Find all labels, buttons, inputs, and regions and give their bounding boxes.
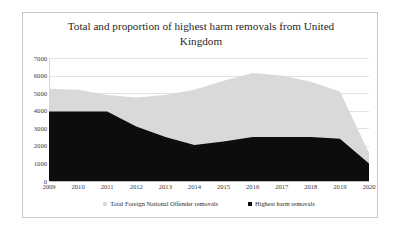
x-axis-tick-label: 2009 (34, 183, 64, 191)
x-axis-tick-label: 2013 (150, 183, 180, 191)
x-axis-tick-label: 2012 (121, 183, 151, 191)
y-axis-tick-label: 2000 (23, 142, 47, 149)
x-axis-tick-label: 2010 (63, 183, 93, 191)
legend-item[interactable]: Total Foreign National Offender removals (103, 200, 218, 208)
y-axis: 01000200030004000500060007000 (23, 58, 47, 181)
legend-swatch-icon (103, 202, 107, 206)
legend-label: Highest harm removals (255, 200, 315, 208)
x-axis-tick-label: 2016 (238, 183, 268, 191)
y-axis-tick-label: 1000 (23, 160, 47, 167)
plot-area-wrapper (49, 58, 369, 181)
series-layer (49, 58, 369, 181)
legend-swatch-icon (248, 202, 252, 206)
y-axis-tick-label: 5000 (23, 90, 47, 97)
chart-legend: Total Foreign National Offender removals… (49, 198, 369, 210)
legend-label: Total Foreign National Offender removals (110, 200, 218, 208)
x-axis-tick-label: 2014 (179, 183, 209, 191)
legend-item[interactable]: Highest harm removals (248, 200, 315, 208)
x-axis-tick-label: 2017 (267, 183, 297, 191)
y-axis-tick-label: 6000 (23, 72, 47, 79)
x-axis: 2009201020112012201320142015201620172018… (49, 183, 369, 195)
x-axis-tick-label: 2018 (296, 183, 326, 191)
chart-title: Total and proportion of highest harm rem… (53, 19, 349, 49)
chart-container: Total and proportion of highest harm rem… (22, 12, 378, 218)
x-axis-tick-label: 2020 (354, 183, 384, 191)
y-axis-tick-label: 3000 (23, 125, 47, 132)
y-axis-tick-label: 4000 (23, 107, 47, 114)
x-axis-tick-label: 2019 (325, 183, 355, 191)
x-axis-tick-label: 2011 (92, 183, 122, 191)
y-axis-tick-label: 7000 (23, 55, 47, 62)
x-axis-tick-label: 2015 (209, 183, 239, 191)
gridline (50, 181, 369, 182)
